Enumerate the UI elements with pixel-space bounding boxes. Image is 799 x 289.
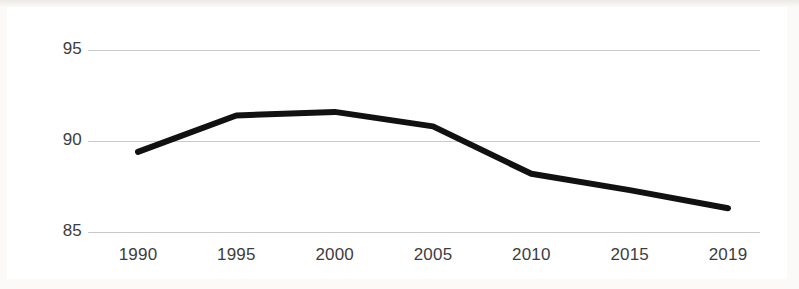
chart-figure: 859095 1990199520002005201020152019 <box>0 0 799 289</box>
series-polyline <box>138 112 728 208</box>
plot-area: 859095 1990199520002005201020152019 <box>0 0 799 289</box>
data-series-line <box>0 0 799 289</box>
